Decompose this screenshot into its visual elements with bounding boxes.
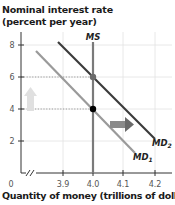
x-tick-4-0: 4.0 [87, 180, 100, 189]
ms-label: MS [86, 32, 101, 42]
chart-plot: 8 6 4 2 0 3.9 4.0 4.1 4.2 MS MD2 MD1 [0, 0, 175, 205]
y-tick-4: 4 [9, 105, 14, 114]
arrow-up-icon [24, 87, 37, 111]
equilibrium-md1 [90, 106, 96, 112]
x-tick-4-1: 4.1 [117, 180, 130, 189]
axes [18, 32, 172, 176]
y-tick-8: 8 [9, 41, 14, 50]
x-tick-4-2: 4.2 [149, 180, 162, 189]
md2-label: MD2 [152, 138, 172, 149]
y-tick-6: 6 [9, 73, 14, 82]
grid [21, 32, 172, 173]
md1-label: MD1 [133, 152, 153, 163]
axis-break-icon [26, 168, 36, 178]
y-tick-2: 2 [9, 137, 14, 146]
x-axis-title: Quantity of money (trillions of dollars) [2, 190, 175, 201]
x-tick-3-9: 3.9 [57, 180, 70, 189]
x-tick-0: 0 [8, 180, 13, 189]
md1-curve [36, 51, 135, 153]
equilibrium-md2 [90, 74, 96, 80]
